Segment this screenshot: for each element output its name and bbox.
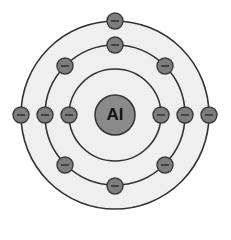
nucleus-label: Al — [95, 104, 135, 126]
